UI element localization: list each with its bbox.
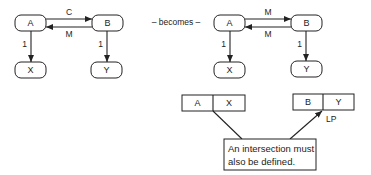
right-node-y-label: Y: [303, 64, 309, 74]
right-edge-a-to-x-label: 1: [221, 39, 226, 49]
left-diagram: A B X Y C M 1 1: [15, 7, 123, 78]
right-diagram: A B X Y M M 1 1: [214, 7, 322, 78]
left-edge-b-to-y-label: 1: [98, 39, 103, 49]
right-edge-b-to-a-label: M: [264, 29, 271, 39]
left-node-y-label: Y: [103, 65, 109, 75]
table-ax-cell-a: A: [194, 98, 200, 108]
entity-diagram: A B X Y C M 1 1 – becomes – A B X Y M M …: [0, 0, 371, 175]
lp-label: LP: [326, 114, 337, 124]
table-by: B Y: [293, 94, 354, 110]
left-node-b-label: B: [104, 18, 110, 28]
left-node-x-label: X: [27, 65, 33, 75]
note-line-1: An intersection must: [228, 143, 314, 154]
table-by-cell-b: B: [305, 97, 311, 107]
left-edge-a-to-x-label: 1: [22, 39, 27, 49]
note-pointer-by: [290, 111, 322, 139]
right-node-x-label: X: [226, 65, 232, 75]
right-edge-a-to-b-label: M: [264, 7, 271, 17]
right-edge-b-to-y-label: 1: [297, 39, 302, 49]
right-node-a-label: A: [226, 18, 232, 28]
left-edge-b-to-a-label: M: [65, 29, 72, 39]
table-ax: A X: [182, 95, 245, 111]
table-by-cell-y: Y: [335, 97, 341, 107]
right-node-b-label: B: [303, 18, 309, 28]
note-pointer-ax: [213, 111, 242, 139]
note-box: An intersection must also be defined.: [224, 139, 316, 170]
table-ax-cell-x: X: [226, 98, 232, 108]
becomes-text: – becomes –: [152, 17, 201, 27]
left-edge-a-to-b-label: C: [66, 7, 72, 17]
note-line-2: also be defined.: [228, 156, 295, 167]
left-node-a-label: A: [27, 18, 33, 28]
